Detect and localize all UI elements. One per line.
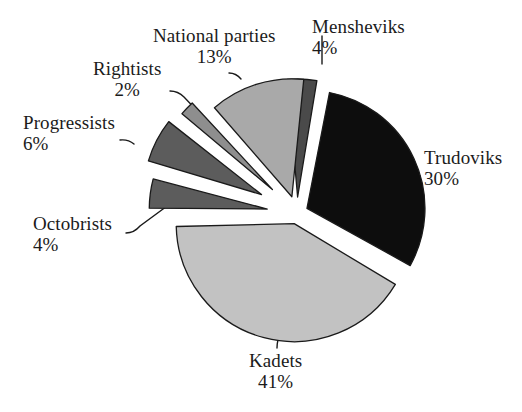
slice-label-value-trudoviks: 30%: [424, 168, 502, 189]
slice-label-value-progressists: 6%: [23, 133, 115, 154]
slice-label-value-national-parties: 13%: [153, 46, 275, 67]
slice-label-kadets: Kadets41%: [249, 350, 302, 393]
pie-slice-kadets[interactable]: [176, 224, 395, 342]
pie-chart: Mensheviks4%Trudoviks30%Kadets41%Octobri…: [0, 0, 522, 412]
slice-label-name-progressists: Progressists: [23, 112, 115, 133]
leader-line-progressists: [120, 140, 134, 144]
slice-label-mensheviks: Mensheviks4%: [312, 16, 405, 59]
pie-slices-group: [148, 79, 425, 342]
slice-label-octobrists: Octobrists4%: [33, 213, 112, 256]
pie-slice-octobrists[interactable]: [149, 179, 267, 209]
slice-label-name-kadets: Kadets: [249, 350, 302, 371]
pie-slice-trudoviks[interactable]: [307, 93, 425, 266]
slice-label-value-octobrists: 4%: [33, 234, 112, 255]
slice-label-value-rightists: 2%: [93, 79, 161, 100]
slice-label-value-kadets: 41%: [249, 371, 302, 392]
slice-label-rightists: Rightists2%: [93, 58, 161, 101]
slice-label-name-national-parties: National parties: [153, 25, 275, 46]
slice-label-name-octobrists: Octobrists: [33, 213, 112, 234]
slice-label-progressists: Progressists6%: [23, 112, 115, 155]
slice-label-national-parties: National parties13%: [153, 25, 275, 68]
slice-label-name-rightists: Rightists: [93, 58, 161, 79]
slice-label-name-trudoviks: Trudoviks: [424, 147, 502, 168]
leader-line-national-parties: [229, 73, 241, 79]
slice-label-trudoviks: Trudoviks30%: [424, 147, 502, 190]
slice-label-name-mensheviks: Mensheviks: [312, 16, 405, 37]
slice-label-value-mensheviks: 4%: [312, 37, 405, 58]
